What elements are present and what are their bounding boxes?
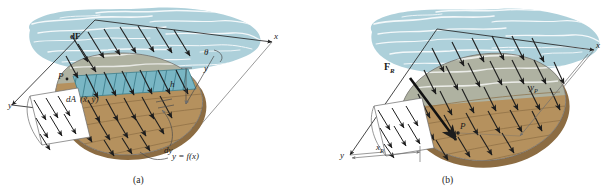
label-point-P-b: P (460, 122, 466, 131)
label-dF: dF (70, 32, 81, 41)
panel-a-drawing (0, 0, 306, 196)
point-P-marker-a (66, 78, 69, 81)
label-dim-yP: yP (530, 83, 538, 94)
label-angle-theta: θ (204, 48, 208, 57)
label-point-P-a: P (58, 72, 64, 81)
axis-label-y-a: y (8, 101, 12, 110)
label-dA: dA (x̃, ỹ) (66, 95, 99, 104)
caption-panel-b: (b) (442, 176, 453, 186)
axis-label-x-a: x (274, 32, 278, 41)
panel-b-drawing (306, 0, 612, 196)
axis-label-y-inclined-a: y (204, 64, 208, 73)
panel-b: FR P x y xP yP (b) (306, 0, 612, 196)
panel-a: dF P dA (x̃, ỹ) x y y h dy θ y = f(x) (… (0, 0, 306, 196)
label-yP-subscript: P (534, 88, 538, 94)
label-dA-centroid: (x̃, ỹ) (80, 94, 98, 104)
label-FR-subscript: R (390, 67, 395, 74)
axis-label-y-b: y (340, 151, 344, 160)
label-xP-subscript: P (380, 148, 384, 154)
figure-hydrostatic-pressure-plate: dF P dA (x̃, ỹ) x y y h dy θ y = f(x) (… (0, 0, 612, 196)
caption-panel-a: (a) (133, 176, 144, 186)
label-dim-xP: xP (376, 143, 384, 154)
label-curve-equation: y = f(x) (172, 152, 199, 161)
label-resultant-force-FR: FR (384, 62, 395, 75)
label-depth-h: h (170, 80, 175, 89)
axis-label-x-b: x (596, 41, 600, 50)
